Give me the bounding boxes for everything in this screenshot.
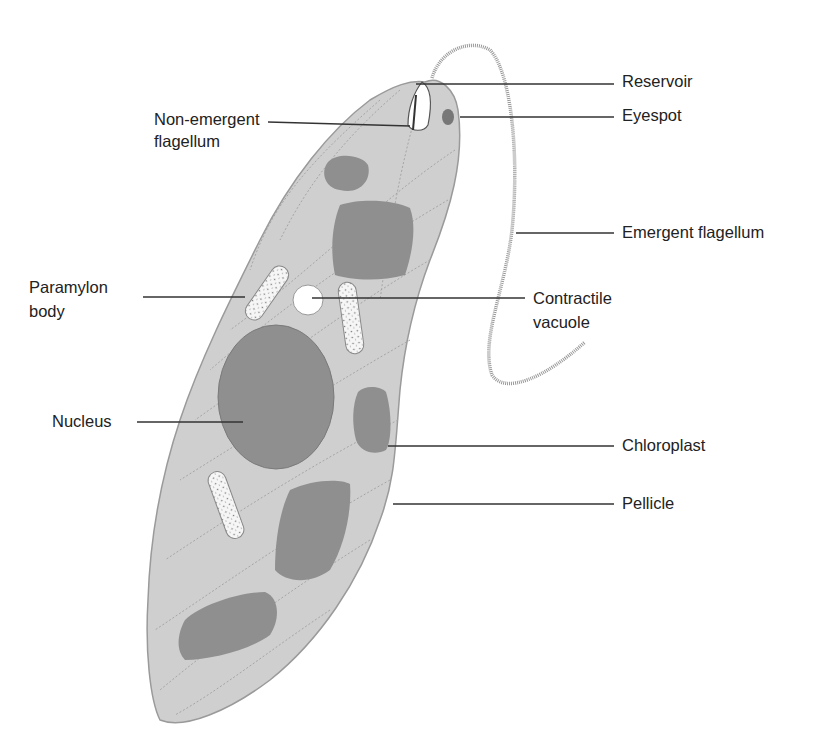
label-contractile-1: Contractile xyxy=(533,287,612,309)
label-non-emergent-1: Non-emergent xyxy=(154,108,259,130)
chloroplast xyxy=(332,201,413,280)
label-nucleus: Nucleus xyxy=(52,410,112,432)
chloroplast xyxy=(353,387,390,453)
label-paramylon-2: body xyxy=(29,300,65,322)
chloroplast xyxy=(324,156,369,191)
label-non-emergent-2: flagellum xyxy=(154,130,220,152)
label-chloroplast: Chloroplast xyxy=(622,434,705,456)
label-pellicle: Pellicle xyxy=(622,492,674,514)
label-reservoir: Reservoir xyxy=(622,70,693,92)
label-emergent-flagellum: Emergent flagellum xyxy=(622,221,764,243)
euglena-diagram xyxy=(0,0,832,747)
label-contractile-2: vacuole xyxy=(533,311,590,333)
eyespot xyxy=(442,109,454,125)
label-paramylon-1: Paramylon xyxy=(29,276,108,298)
contractile-vacuole xyxy=(293,285,323,315)
nucleus xyxy=(218,325,334,469)
label-eyespot: Eyespot xyxy=(622,104,682,126)
